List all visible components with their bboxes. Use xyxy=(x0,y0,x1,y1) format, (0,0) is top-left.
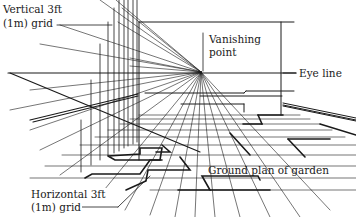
ground-plan-outline xyxy=(85,115,356,190)
left-fence xyxy=(10,73,200,152)
vertical-grid-label-line2: (1m) grid xyxy=(2,17,54,29)
eye-line-label: Eye line xyxy=(298,67,343,79)
vanishing-point-label-line1: Vanishing xyxy=(208,33,262,45)
ground-plan-label: Ground plan of garden xyxy=(208,164,329,176)
vertical-grid-label-line1: Vertical 3ft xyxy=(2,3,63,15)
horizontal-grid-label-line1: Horizontal 3ft xyxy=(30,188,106,200)
vanishing-point-label-line2: point xyxy=(208,46,237,58)
horizontal-grid xyxy=(30,115,356,190)
perspective-diagram xyxy=(0,0,356,217)
vertical-grid xyxy=(81,0,137,172)
horizontal-grid-label-line2: (1m) grid xyxy=(30,201,82,213)
perspective-rays xyxy=(10,0,330,217)
